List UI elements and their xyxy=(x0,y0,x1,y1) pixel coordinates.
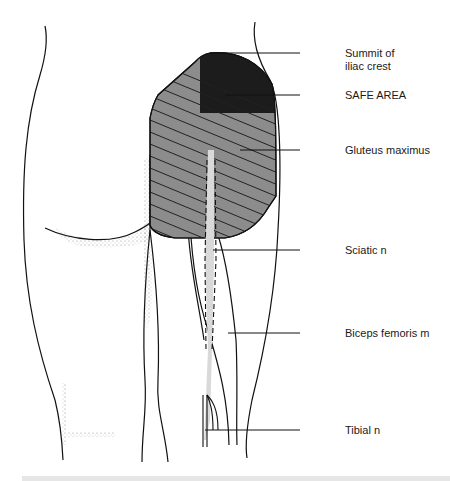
label-summit-line2: iliac crest xyxy=(345,60,395,73)
label-gluteus-maximus: Gluteus maximus xyxy=(345,144,430,157)
label-tibial-nerve: Tibial n xyxy=(345,424,380,437)
label-summit-line1: Summit of xyxy=(345,47,395,60)
label-biceps-femoris: Biceps femoris m xyxy=(345,327,429,340)
stipple-shading xyxy=(55,158,152,445)
label-safe-area: SAFE AREA xyxy=(345,89,406,102)
safe-area-region xyxy=(200,45,280,113)
bottom-divider xyxy=(22,476,450,481)
label-sciatic-nerve: Sciatic n xyxy=(345,244,387,257)
label-summit-of-iliac-crest: Summit of iliac crest xyxy=(345,47,395,73)
